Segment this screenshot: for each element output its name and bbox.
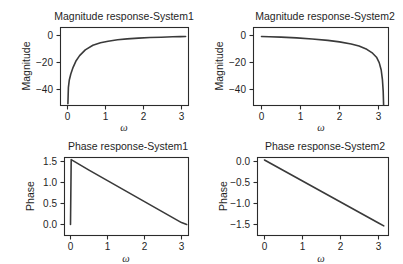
x-tick-label-2: 2 bbox=[337, 111, 343, 122]
x-tick-label-3: 3 bbox=[376, 241, 382, 252]
x-tick-label-3: 3 bbox=[376, 111, 382, 122]
figure-canvas: Magnitude response-System1 0 −20 −40 0 1… bbox=[0, 0, 403, 264]
y-tick-label-2: −40 bbox=[229, 84, 246, 95]
y-axis-label: Magnitude bbox=[213, 41, 225, 90]
y-axis-label: Phase bbox=[24, 181, 36, 211]
data-curve-phase-system2 bbox=[265, 160, 384, 226]
y-tick-label-2: −1.0 bbox=[230, 198, 250, 209]
plot-frame bbox=[65, 158, 189, 236]
x-tick-label-0: 0 bbox=[262, 241, 268, 252]
plot-phase-system1: Phase response-System1 1.5 1.0 0.5 0.0 0… bbox=[0, 132, 201, 264]
x-axis-label: ω bbox=[317, 122, 324, 132]
x-tick-label-0: 0 bbox=[259, 111, 265, 122]
x-tick-label-0: 0 bbox=[65, 111, 71, 122]
plot-phase-system2: Phase response-System2 0.0 −0.5 −1.0 −1.… bbox=[201, 132, 402, 264]
x-axis-label: ω bbox=[317, 253, 324, 264]
y-axis-label: Phase bbox=[217, 181, 229, 211]
y-tick-label-3: −1.5 bbox=[230, 219, 250, 230]
x-tick-label-2: 2 bbox=[142, 241, 148, 252]
y-tick-label-1: −0.5 bbox=[230, 177, 250, 188]
y-tick-label-3: 0.0 bbox=[43, 219, 57, 230]
y-axis-label: Magnitude bbox=[20, 41, 32, 90]
x-axis-label: ω bbox=[122, 253, 129, 264]
x-axis-label: ω bbox=[120, 122, 127, 132]
plot-title-magnitude-system1: Magnitude response-System1 bbox=[54, 10, 194, 22]
y-tick-label-0: 0 bbox=[240, 30, 246, 41]
data-curve-magnitude-system2 bbox=[262, 37, 384, 105]
plot-frame bbox=[258, 158, 389, 236]
y-tick-label-1: −20 bbox=[36, 57, 53, 68]
y-tick-label-0: 1.5 bbox=[43, 156, 57, 167]
x-tick-label-1: 1 bbox=[300, 241, 306, 252]
data-curve-phase-system1 bbox=[71, 160, 187, 225]
y-tick-label-2: −40 bbox=[36, 84, 53, 95]
x-tick-label-1: 1 bbox=[103, 111, 109, 122]
plot-magnitude-system2: Magnitude response-System2 0 −20 −40 0 1… bbox=[201, 0, 402, 132]
y-tick-label-1: 1.0 bbox=[43, 177, 57, 188]
x-tick-label-1: 1 bbox=[105, 241, 111, 252]
y-tick-label-2: 0.5 bbox=[43, 198, 57, 209]
x-tick-label-2: 2 bbox=[141, 111, 147, 122]
plot-title-phase-system1: Phase response-System1 bbox=[68, 140, 188, 152]
x-tick-label-3: 3 bbox=[179, 241, 185, 252]
y-tick-label-0: 0.0 bbox=[236, 156, 250, 167]
plot-title-phase-system2: Phase response-System2 bbox=[265, 140, 385, 152]
x-tick-label-0: 0 bbox=[68, 241, 74, 252]
data-curve-magnitude-system1 bbox=[68, 37, 186, 104]
y-tick-label-0: 0 bbox=[47, 30, 53, 41]
plot-magnitude-system1: Magnitude response-System1 0 −20 −40 0 1… bbox=[0, 0, 201, 132]
plot-title-magnitude-system2: Magnitude response-System2 bbox=[255, 10, 395, 22]
y-tick-label-1: −20 bbox=[229, 57, 246, 68]
x-tick-label-1: 1 bbox=[298, 111, 304, 122]
x-tick-label-2: 2 bbox=[338, 241, 344, 252]
x-tick-label-3: 3 bbox=[179, 111, 185, 122]
